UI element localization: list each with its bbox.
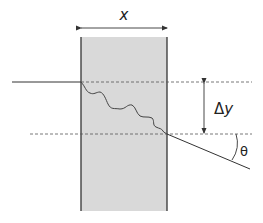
refraction-diagram: x Δy θ xyxy=(0,0,263,223)
angle-label: θ xyxy=(240,144,248,159)
angle-arc xyxy=(232,134,237,160)
delta-y-label: Δy xyxy=(214,100,234,118)
width-label: x xyxy=(119,6,129,24)
